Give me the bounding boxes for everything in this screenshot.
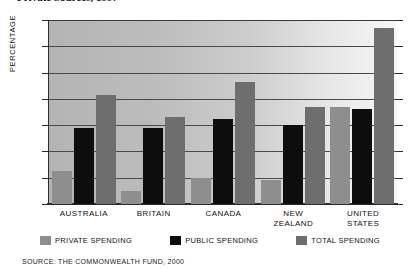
category-label-line1: AUSTRALIA — [60, 209, 108, 218]
chart-figure: Private Sources, 1997 PERCENTAGE 0246810… — [0, 0, 411, 272]
source-note: SOURCE: THE COMMONWEALTH FUND, 2000 — [22, 258, 184, 265]
bar — [374, 28, 394, 204]
legend-item: TOTAL SPENDING — [296, 236, 380, 245]
y-tick-mark-right — [397, 73, 403, 74]
bar-group — [327, 20, 397, 204]
bar-group — [119, 20, 189, 204]
category-label-line1: BRITAIN — [137, 209, 171, 218]
legend-label: PUBLIC SPENDING — [185, 236, 258, 245]
category-label-line2: STATES — [328, 219, 398, 229]
bar — [74, 128, 94, 204]
y-tick-mark-right — [397, 46, 403, 47]
bar-groups — [49, 20, 397, 204]
bar — [213, 119, 233, 204]
bar — [305, 107, 325, 204]
y-tick-mark-right — [397, 99, 403, 100]
category-label-line1: CANADA — [206, 209, 242, 218]
bar — [330, 107, 350, 204]
bar — [165, 117, 185, 204]
bar — [96, 95, 116, 204]
y-tick-mark-right — [397, 20, 403, 21]
category-label-line1: NEW — [283, 209, 303, 218]
chart-legend: PRIVATE SPENDINGPUBLIC SPENDINGTOTAL SPE… — [40, 236, 380, 245]
legend-item: PRIVATE SPENDING — [40, 236, 132, 245]
bar — [261, 180, 281, 204]
bar — [352, 109, 372, 204]
bar-group — [258, 20, 328, 204]
legend-label: TOTAL SPENDING — [311, 236, 380, 245]
y-tick-mark-right — [397, 151, 403, 152]
category-label-line1: UNITED — [347, 209, 379, 218]
legend-swatch-private — [40, 236, 51, 245]
bar — [143, 128, 163, 204]
legend-swatch-public — [170, 236, 181, 245]
chart-title-text: Private Sources, 1997 — [17, 0, 118, 3]
bar-group — [188, 20, 258, 204]
y-tick-mark-right — [397, 125, 403, 126]
category-labels: AUSTRALIABRITAINCANADANEWZEALANDUNITEDST… — [49, 209, 398, 229]
bar — [52, 171, 72, 204]
bar-group — [49, 20, 119, 204]
bar — [283, 125, 303, 204]
y-tick-mark-right — [397, 178, 403, 179]
legend-swatch-total — [296, 236, 307, 245]
category-label-line2: ZEALAND — [258, 219, 328, 229]
y-axis-title: PERCENTAGE — [8, 15, 17, 72]
category-label: CANADA — [189, 209, 259, 229]
bar — [191, 178, 211, 204]
legend-item: PUBLIC SPENDING — [170, 236, 258, 245]
category-label: UNITEDSTATES — [328, 209, 398, 229]
bar — [235, 82, 255, 204]
legend-label: PRIVATE SPENDING — [55, 236, 132, 245]
bar — [121, 191, 141, 204]
plot-area: 02468101214 — [48, 20, 397, 204]
category-label: AUSTRALIA — [49, 209, 119, 229]
chart-title-clipped: Private Sources, 1997 — [0, 0, 411, 6]
category-label: BRITAIN — [119, 209, 189, 229]
category-label: NEWZEALAND — [258, 209, 328, 229]
